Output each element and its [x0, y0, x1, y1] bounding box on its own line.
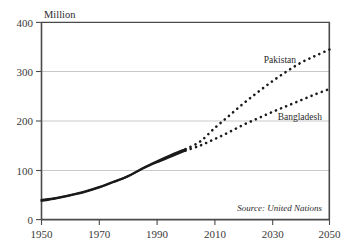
x-tick-label-2010: 2010: [204, 228, 227, 240]
source-note: Source: United Nations: [237, 203, 322, 213]
x-tick-label-2030: 2030: [262, 228, 285, 240]
x-tick-label-1950: 1950: [31, 228, 54, 240]
x-tick-label-1990: 1990: [146, 228, 169, 240]
population-projection-chart: Million 0 100 200 300 400 1950 1970 1990…: [0, 0, 351, 251]
y-tick-label-0: 0: [28, 214, 34, 226]
series-label-pakistan: Pakistan: [264, 55, 296, 65]
y-tick-label-100: 100: [17, 165, 34, 177]
y-tick-label-200: 200: [17, 115, 34, 127]
chart-canvas: Million 0 100 200 300 400 1950 1970 1990…: [0, 0, 351, 251]
chart-background: [0, 0, 351, 251]
y-tick-label-400: 400: [17, 17, 34, 29]
x-tick-label-2050: 2050: [319, 228, 342, 240]
x-tick-label-1970: 1970: [88, 228, 111, 240]
series-label-bangladesh: Bangladesh: [278, 112, 323, 122]
y-axis-unit-label: Million: [44, 9, 76, 20]
y-tick-label-300: 300: [17, 66, 34, 78]
